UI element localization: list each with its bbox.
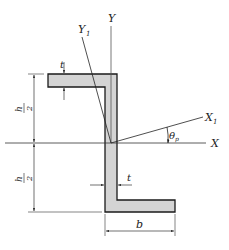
x1-axis [111,117,203,143]
x1-axis-subscript: 1 [213,118,217,126]
svg-text:h: h [14,176,24,182]
svg-text:2: 2 [25,176,34,182]
x-axis-label: X [210,137,220,150]
theta-arc [167,127,168,143]
svg-text:h: h [14,106,24,112]
z-section-diagram: Y Y 1 X X 1 θ p t t b h 2 h 2 [0,0,229,250]
y1-axis-subscript: 1 [86,30,90,38]
h-half-top-label: h 2 [14,103,34,113]
svg-text:2: 2 [25,106,34,112]
theta-subscript: p [175,135,179,143]
y-axis-label: Y [108,12,117,25]
b-label: b [136,218,143,231]
t-web-label: t [127,172,132,183]
h-half-bottom-label: h 2 [14,173,34,183]
